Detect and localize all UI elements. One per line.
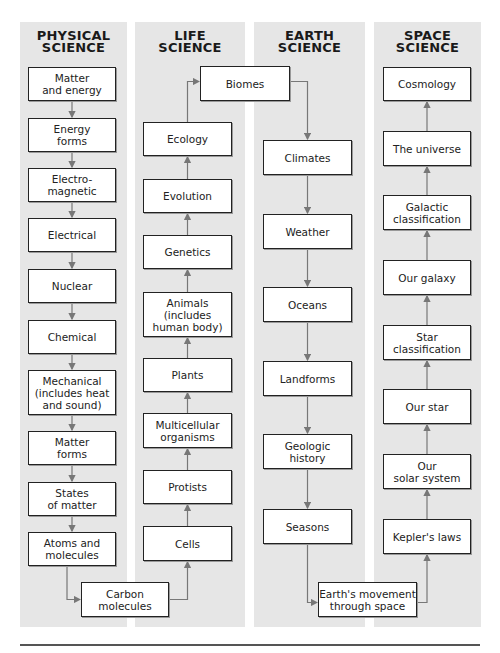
topic-box-keplers-laws: Kepler's laws bbox=[383, 519, 471, 554]
topic-box-cosmology: Cosmology bbox=[383, 67, 471, 101]
topic-box-landforms: Landforms bbox=[263, 361, 352, 396]
topic-box-our-solar-system: Our solar system bbox=[383, 454, 471, 489]
bridge-box-biomes: Biomes bbox=[200, 66, 290, 101]
topic-box-our-galaxy: Our galaxy bbox=[383, 260, 471, 295]
topic-box-animals: Animals (includes human body) bbox=[143, 292, 232, 337]
topic-box-chemical: Chemical bbox=[28, 320, 116, 354]
column-title-space: SPACE SCIENCE bbox=[374, 30, 481, 54]
topic-box-multicellular-organisms: Multicellular organisms bbox=[143, 413, 232, 448]
topic-box-states-of-matter: States of matter bbox=[28, 482, 116, 516]
bottom-rule bbox=[20, 644, 480, 646]
topic-box-matter-forms: Matter forms bbox=[28, 431, 116, 465]
column-title-physical: PHYSICAL SCIENCE bbox=[20, 30, 127, 54]
topic-box-cells: Cells bbox=[143, 526, 232, 561]
topic-box-seasons: Seasons bbox=[263, 509, 352, 544]
topic-box-our-star: Our star bbox=[383, 389, 471, 424]
topic-box-nuclear: Nuclear bbox=[28, 269, 116, 303]
topic-box-weather: Weather bbox=[263, 214, 352, 249]
topic-box-electrical: Electrical bbox=[28, 218, 116, 252]
topic-box-mechanical: Mechanical (includes heat and sound) bbox=[28, 370, 116, 415]
topic-box-star-classification: Star classification bbox=[383, 325, 471, 360]
topic-box-atoms-and-molecules: Atoms and molecules bbox=[28, 532, 116, 566]
topic-box-genetics: Genetics bbox=[143, 235, 232, 269]
topic-box-climates: Climates bbox=[263, 140, 352, 175]
topic-box-oceans: Oceans bbox=[263, 287, 352, 322]
topic-box-matter-and-energy: Matter and energy bbox=[28, 67, 116, 101]
topic-box-geologic-history: Geologic history bbox=[263, 434, 352, 469]
column-title-life: LIFE SCIENCE bbox=[135, 30, 245, 54]
column-title-earth: EARTH SCIENCE bbox=[254, 30, 365, 54]
bridge-box-earths-movement: Earth's movement through space bbox=[318, 582, 417, 617]
topic-box-plants: Plants bbox=[143, 358, 232, 392]
bridge-box-carbon-molecules: Carbon molecules bbox=[81, 582, 169, 617]
topic-box-evolution: Evolution bbox=[143, 179, 232, 213]
topic-box-ecology: Ecology bbox=[143, 122, 232, 156]
topic-box-the-universe: The universe bbox=[383, 131, 471, 166]
topic-box-protists: Protists bbox=[143, 470, 232, 504]
topic-box-galactic-classification: Galactic classification bbox=[383, 195, 471, 230]
topic-box-energy-forms: Energy forms bbox=[28, 118, 116, 152]
topic-box-electromagnetic: Electro- magnetic bbox=[28, 168, 116, 202]
